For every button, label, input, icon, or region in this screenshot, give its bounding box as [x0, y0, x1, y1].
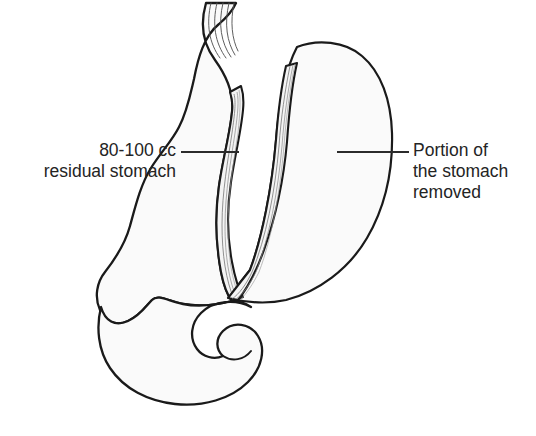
organ-shapes — [97, 3, 392, 405]
residual-stomach-label-line1: 80-100 cc — [0, 140, 176, 161]
figure-canvas: 80-100 cc residual stomach Portion of th… — [0, 0, 536, 436]
removed-portion-label-line1: Portion of — [413, 140, 508, 161]
sleeve-gastrectomy-illustration — [0, 0, 536, 436]
residual-stomach-label: 80-100 cc residual stomach — [0, 140, 176, 182]
removed-portion-label: Portion of the stomach removed — [413, 140, 508, 203]
removed-portion-label-line2: the stomach — [413, 161, 508, 182]
removed-portion-label-line3: removed — [413, 182, 508, 203]
residual-stomach-label-line2: residual stomach — [0, 161, 176, 182]
